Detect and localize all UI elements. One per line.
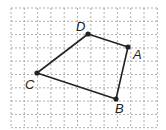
label-B: B <box>115 102 124 115</box>
label-D: D <box>76 20 85 33</box>
edge-DA <box>88 34 128 47</box>
point-A <box>125 44 130 49</box>
label-A: A <box>133 48 142 61</box>
point-C <box>34 70 39 75</box>
point-D <box>85 31 90 36</box>
label-C: C <box>25 78 34 91</box>
edge-CD <box>37 34 88 73</box>
